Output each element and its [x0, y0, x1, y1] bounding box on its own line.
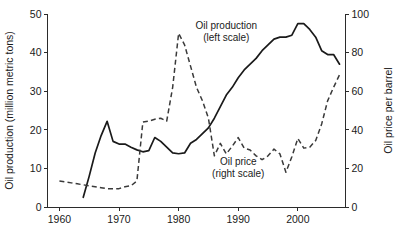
right-axis-tick-label: 60	[352, 85, 364, 97]
x-axis-tick-label: 2000	[286, 213, 310, 225]
oil-production-and-price-chart: 0102030405002040608010019601970198019902…	[0, 0, 403, 245]
left-axis-tick-label: 30	[30, 85, 42, 97]
annotation-label-line1: Oil production	[195, 20, 257, 31]
axis-titles-group: Oil production (million metric tons)Oil …	[3, 31, 394, 190]
annotation-label-line1: Oil price	[220, 156, 257, 167]
series-group	[59, 24, 339, 198]
axes-group: 0102030405002040608010019601970198019902…	[30, 8, 369, 225]
right-axis-tick-label: 80	[352, 46, 364, 58]
right-axis-tick-label: 0	[352, 201, 358, 213]
left-axis-tick-label: 50	[30, 8, 42, 20]
series-annotation: Oil price(right scale)	[212, 156, 264, 179]
x-axis-tick-label: 1980	[167, 213, 191, 225]
left-axis-title: Oil production (million metric tons)	[3, 31, 15, 190]
right-axis-title: Oil price per barrel	[382, 67, 394, 153]
chart-figure: 0102030405002040608010019601970198019902…	[0, 0, 403, 245]
x-axis-tick-label: 1990	[227, 213, 251, 225]
x-axis-tick-label: 1970	[107, 213, 131, 225]
left-axis-tick-label: 10	[30, 162, 42, 174]
annotation-label-line2: (right scale)	[212, 168, 264, 179]
series-line-oil-price	[59, 33, 339, 188]
x-axis-tick-label: 1960	[48, 213, 72, 225]
right-axis-tick-label: 40	[352, 124, 364, 136]
left-axis-tick-label: 20	[30, 124, 42, 136]
annotation-label-line2: (left scale)	[203, 32, 249, 43]
annotations-group: Oil production(left scale)Oil price(righ…	[195, 20, 264, 178]
series-annotation: Oil production(left scale)	[195, 20, 257, 43]
left-axis-tick-label: 40	[30, 46, 42, 58]
left-axis-tick-label: 0	[36, 201, 42, 213]
right-axis-tick-label: 100	[352, 8, 370, 20]
right-axis-tick-label: 20	[352, 162, 364, 174]
